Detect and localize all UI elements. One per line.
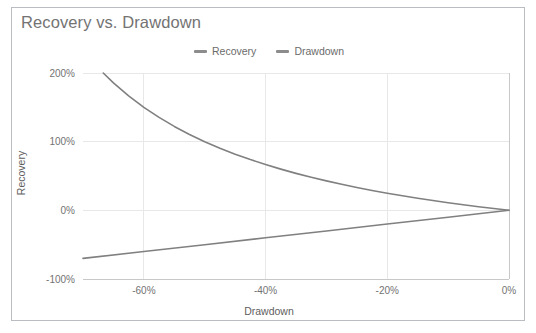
y-tick-label: 0%: [61, 205, 76, 216]
y-axis-title: Recovery: [15, 150, 27, 195]
gridlines: [83, 73, 509, 279]
axis-lines: [83, 73, 509, 279]
plot-area: -60%-40%-20%0% 200%100%0%-100% Drawdown …: [12, 8, 526, 322]
y-axis-tick-labels: 200%100%0%-100%: [46, 68, 75, 285]
x-axis-tick-labels: -60%-40%-20%0%: [132, 285, 516, 296]
y-tick-label: 200%: [49, 68, 75, 79]
x-tick-label: -40%: [254, 285, 277, 296]
data-series: [83, 73, 509, 258]
x-tick-label: -20%: [376, 285, 399, 296]
x-tick-label: 0%: [502, 285, 517, 296]
x-axis-title: Drawdown: [244, 305, 294, 317]
series-line-drawdown: [83, 210, 509, 258]
y-tick-label: 100%: [49, 136, 75, 147]
chart-container: Recovery vs. Drawdown Recovery Drawdown …: [11, 7, 525, 321]
y-tick-label: -100%: [46, 274, 75, 285]
x-tick-label: -60%: [132, 285, 155, 296]
